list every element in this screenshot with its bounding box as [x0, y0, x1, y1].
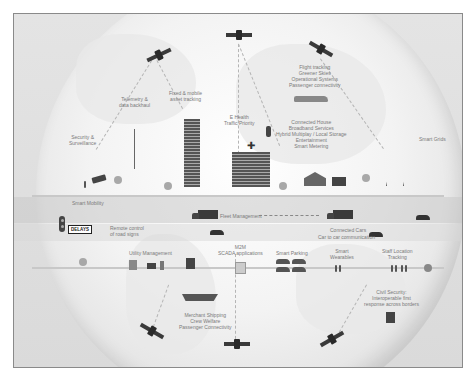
tree-icon: [79, 258, 87, 266]
label-merchant-group: Merchant Shipping Crew Welfare Passenger…: [179, 312, 232, 330]
label-civil-security-line: response across borders: [364, 301, 419, 307]
label-civil-security-group: Civil Security: Interoperable first resp…: [364, 289, 419, 307]
label-merchant-line: Passenger Connectivity: [179, 324, 232, 330]
ground-line: [32, 195, 444, 197]
parked-car-icon: [276, 267, 290, 272]
person-icon: [391, 265, 393, 272]
hands-icon: [186, 258, 195, 269]
parked-car-icon: [276, 259, 290, 264]
label-flight-line: Passenger connectivity: [289, 82, 340, 88]
label-remote-control: Remote control of road signs: [110, 225, 144, 237]
person-icon: [405, 265, 407, 272]
car-icon: [416, 215, 430, 220]
scada-panel-icon: [235, 262, 246, 274]
tree-icon: [362, 174, 370, 182]
label-connected-cars: Connected Cars: [330, 227, 366, 233]
label-ehealth: E Health Traffic Priority: [224, 114, 255, 126]
label-smart-mobility: Smart Mobility: [72, 200, 104, 206]
label-car-to-car: Car to car communication: [318, 234, 375, 240]
label-m2m: M2M SCADA applications: [218, 244, 263, 256]
continent-shape: [76, 34, 196, 124]
hands-icon: [386, 312, 395, 323]
person-icon: [339, 265, 341, 272]
tree-icon: [164, 182, 172, 190]
label-connected-house-group: Connected House Broadband Services Hybri…: [276, 119, 347, 149]
hospital-icon: [232, 152, 270, 187]
ship-icon: [182, 294, 218, 301]
satellite-icon: [224, 337, 250, 351]
label-telemetry: Telemetry & data backhaul: [119, 96, 150, 108]
fuel-pump-icon: [129, 260, 137, 270]
factory-icon: [332, 177, 346, 186]
medical-cross-icon: ✚: [247, 142, 255, 150]
label-smart-grids: Smart Grids: [419, 136, 446, 142]
parked-car-icon: [292, 259, 306, 264]
traffic-light-icon: [266, 126, 271, 137]
airplane-icon: [294, 96, 328, 102]
antenna-tower-icon: [134, 129, 135, 169]
link-line: [238, 44, 239, 164]
car-icon: [210, 230, 224, 235]
office-building-icon: [184, 119, 200, 187]
label-connected-house-line: Smart Metering: [276, 143, 347, 149]
label-staff-tracking: Staff Location Tracking: [382, 248, 413, 260]
diagram-frame: Telemetry & data backhaul Fixed & mobile…: [13, 13, 463, 368]
traffic-light-icon: [59, 216, 65, 232]
person-icon: [335, 265, 337, 272]
person-icon: [401, 265, 403, 272]
label-fixed-mobile: Fixed & mobile asset tracking: [169, 90, 202, 102]
person-icon: [84, 181, 86, 188]
label-utility: Utility Management: [129, 250, 172, 256]
lightning-icon: [160, 261, 164, 270]
label-smart-wearables: Smart Wearables: [330, 248, 354, 260]
person-icon: [395, 265, 397, 272]
truck-icon: [327, 210, 353, 221]
parked-car-icon: [292, 267, 306, 272]
delays-road-sign: DELAYS: [68, 225, 92, 234]
tree-icon: [279, 182, 287, 190]
globe: [36, 13, 463, 368]
label-smart-parking: Smart Parking: [276, 250, 308, 256]
satellite-icon: [226, 28, 252, 42]
tree-icon: [114, 176, 122, 184]
fleet-link-line: [259, 215, 319, 216]
label-fleet: Fleet Management: [220, 213, 262, 219]
label-security: Security & Surveillance: [69, 134, 96, 146]
truck-icon: [192, 210, 218, 221]
label-flight-group: Flight tracking Greener Skies Operationa…: [289, 64, 340, 88]
tree-icon: [424, 264, 432, 272]
water-tap-icon: [147, 263, 156, 269]
